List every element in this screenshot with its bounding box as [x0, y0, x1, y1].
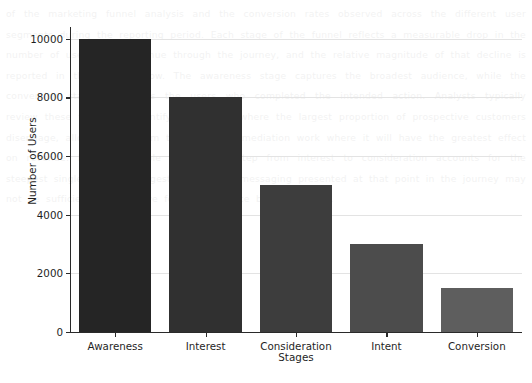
y-axis-tick-label: 8000	[37, 91, 63, 103]
bar	[169, 97, 241, 331]
bars-group	[70, 27, 522, 333]
y-axis-spine	[70, 27, 71, 333]
bar-chart-figure: of the marketing funnel analysis and the…	[0, 0, 532, 383]
x-axis-tick-mark	[477, 333, 478, 337]
y-axis-tick-label: 10000	[30, 33, 63, 45]
bar	[350, 244, 422, 332]
x-axis-label: Stages	[70, 351, 522, 363]
x-axis-tick-mark	[115, 333, 116, 337]
bar	[79, 39, 151, 332]
bar	[260, 185, 332, 331]
x-axis-spine	[70, 332, 522, 333]
x-axis-tick-mark	[296, 333, 297, 337]
y-axis-tick-label: 6000	[37, 150, 63, 162]
plot-area: 0200040006000800010000 AwarenessInterest…	[70, 27, 522, 333]
x-axis-tick-mark	[206, 333, 207, 337]
bar	[441, 288, 513, 332]
y-axis-tick-label: 4000	[37, 209, 63, 221]
y-axis-tick-label: 2000	[37, 267, 63, 279]
y-axis-tick-label: 0	[56, 326, 63, 338]
x-axis-tick-mark	[386, 333, 387, 337]
